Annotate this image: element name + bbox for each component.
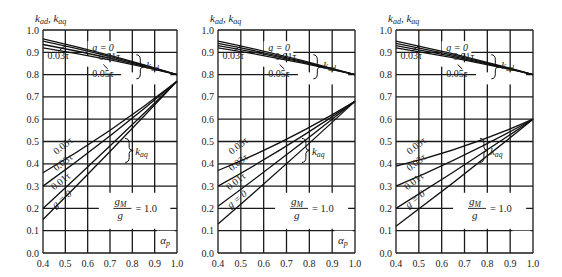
label-003tau-kad: 0.03τ: [47, 50, 69, 61]
y-tick-label: 0.5: [380, 136, 393, 147]
x-tick-label: 1.0: [171, 258, 184, 269]
label-kaq-2: 0.01τ: [224, 170, 248, 192]
y-tick-label: 0.0: [380, 248, 393, 259]
y-tick-label: 0.9: [380, 47, 393, 58]
label-kaq-1: 0.03τ: [404, 151, 428, 173]
x-tick-label: 0.4: [390, 258, 403, 269]
x-tick-label: 0.8: [303, 258, 316, 269]
ratio-value: = 1.0: [490, 203, 512, 214]
y-tick-label: 0.2: [27, 203, 40, 214]
y-tick-label: 0.0: [202, 248, 215, 259]
figure: 0.00.10.20.30.40.50.60.70.80.91.00.40.50…: [0, 0, 562, 277]
ratio-denominator: g: [472, 209, 478, 221]
y-tick-label: 0.5: [27, 136, 40, 147]
curve-labels: g = 00.01τ0.03τ0.05τkadkaq0.05τ0.03τ0.01…: [47, 42, 159, 210]
y-tick-label: 0.3: [380, 181, 393, 192]
label-001tau-kad: 0.01τ: [453, 51, 475, 62]
y-tick-labels: 0.00.10.20.30.40.50.60.70.80.91.0: [27, 25, 40, 259]
chart-panel-2: 0.00.10.20.30.40.50.60.70.80.91.00.40.50…: [202, 12, 362, 269]
label-kaq: kaq: [490, 145, 503, 159]
y-tick-label: 0.4: [202, 158, 215, 169]
y-tick-label: 1.0: [27, 25, 40, 36]
y-tick-label: 0.8: [202, 69, 215, 80]
x-tick-label: 0.4: [37, 258, 50, 269]
y-tick-label: 0.1: [27, 225, 40, 236]
y-tick-label: 0.6: [27, 114, 40, 125]
x-tick-label: 0.9: [504, 258, 517, 269]
y-tick-label: 0.1: [380, 225, 393, 236]
ratio-denominator: g: [117, 209, 123, 221]
label-kaq-3: g = 0: [50, 188, 74, 210]
y-tick-label: 0.6: [380, 114, 393, 125]
y-tick-label: 0.1: [202, 225, 215, 236]
x-tick-label: 0.5: [59, 258, 72, 269]
label-kaq-2: 0.01τ: [49, 170, 73, 192]
y-tick-label: 1.0: [202, 25, 215, 36]
y-tick-labels: 0.00.10.20.30.40.50.60.70.80.91.0: [202, 25, 215, 259]
x-tick-label: 0.6: [257, 258, 270, 269]
y-tick-label: 0.2: [202, 203, 215, 214]
x-tick-label: 0.6: [81, 258, 94, 269]
y-axis-title: kad, kaq: [388, 12, 419, 26]
label-kaq-0: 0.05τ: [226, 135, 250, 157]
x-tick-label: 0.7: [280, 258, 293, 269]
x-tick-label: 0.9: [326, 258, 339, 269]
y-tick-label: 1.0: [380, 25, 393, 36]
ratio-value: = 1.0: [312, 203, 334, 214]
y-tick-label: 0.6: [202, 114, 215, 125]
y-tick-label: 0.7: [27, 91, 40, 102]
label-001tau-kad: 0.01τ: [275, 51, 297, 62]
y-tick-label: 0.5: [202, 136, 215, 147]
label-kad: kad: [323, 59, 336, 73]
label-kaq: kaq: [312, 145, 325, 159]
y-tick-label: 0.7: [380, 91, 393, 102]
label-005tau-kad: 0.05τ: [268, 68, 290, 79]
label-005tau-kad: 0.05τ: [446, 68, 468, 79]
label-kaq-0: 0.05τ: [404, 135, 428, 157]
label-kaq-3: g = 0: [225, 188, 249, 210]
y-tick-label: 0.0: [27, 248, 40, 259]
x-tick-label: 0.8: [126, 258, 139, 269]
ratio-denominator: g: [294, 209, 300, 221]
y-tick-label: 0.2: [380, 203, 393, 214]
label-kaq-1: 0.03τ: [51, 151, 75, 173]
y-axis-title: kad, kaq: [35, 12, 66, 26]
y-tick-label: 0.8: [27, 69, 40, 80]
x-tick-label: 0.7: [104, 258, 117, 269]
label-001tau-kad: 0.01τ: [99, 51, 121, 62]
x-tick-label: 0.7: [458, 258, 471, 269]
label-kad: kad: [146, 59, 159, 73]
y-tick-label: 0.9: [202, 47, 215, 58]
curve-labels: g = 00.01τ0.03τ0.05τkadkaq0.05τ0.03τ0.01…: [401, 42, 515, 210]
y-tick-label: 0.4: [380, 158, 393, 169]
ratio-value: = 1.0: [135, 203, 157, 214]
label-kaq-0: 0.05τ: [51, 135, 75, 157]
y-tick-label: 0.7: [202, 91, 215, 102]
x-tick-label: 0.6: [435, 258, 448, 269]
x-tick-label: 0.5: [235, 258, 248, 269]
label-kad: kad: [501, 59, 514, 73]
x-tick-label: 0.8: [481, 258, 494, 269]
y-tick-label: 0.9: [27, 47, 40, 58]
label-kaq: kaq: [135, 145, 148, 159]
y-axis-title: kad, kaq: [210, 12, 241, 26]
x-tick-label: 1.0: [527, 258, 540, 269]
chart-panel-3: 0.00.10.20.30.40.50.60.70.80.91.00.40.50…: [380, 12, 540, 269]
x-tick-label: 0.9: [148, 258, 161, 269]
x-tick-labels: 0.40.50.60.70.80.91.0: [37, 258, 184, 269]
x-tick-label: 0.5: [413, 258, 426, 269]
x-tick-labels: 0.40.50.60.70.80.91.0: [390, 258, 540, 269]
x-tick-labels: 0.40.50.60.70.80.91.0: [212, 258, 362, 269]
label-003tau-kad: 0.03τ: [401, 50, 423, 61]
label-kaq-2: 0.01τ: [402, 170, 426, 192]
x-tick-label: 1.0: [349, 258, 362, 269]
label-005tau-kad: 0.05τ: [92, 68, 114, 79]
y-tick-label: 0.4: [27, 158, 40, 169]
x-tick-label: 0.4: [212, 258, 225, 269]
y-tick-labels: 0.00.10.20.30.40.50.60.70.80.91.0: [380, 25, 393, 259]
chart-panel-1: 0.00.10.20.30.40.50.60.70.80.91.00.40.50…: [27, 12, 184, 269]
y-tick-label: 0.3: [27, 181, 40, 192]
label-003tau-kad: 0.03τ: [223, 50, 245, 61]
y-tick-label: 0.3: [202, 181, 215, 192]
y-tick-label: 0.8: [380, 69, 393, 80]
